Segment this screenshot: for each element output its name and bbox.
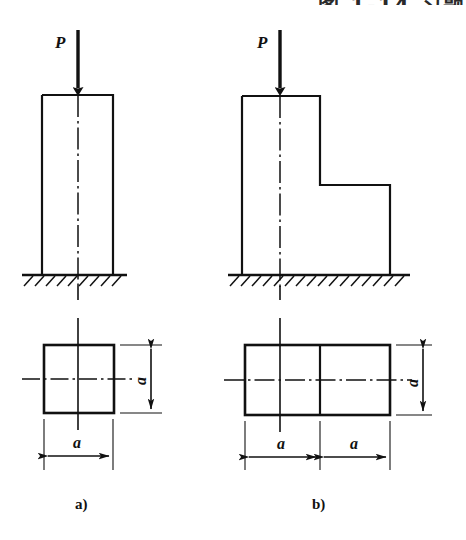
panel-a-elevation: P [22, 30, 127, 290]
caption-a: a) [75, 496, 88, 513]
ground-hatching-b [230, 276, 404, 286]
load-label-a: P [54, 33, 66, 52]
dim-label-height-b: a [404, 379, 421, 387]
ground-hatching-a [24, 276, 121, 286]
dim-label-width-b-left: a [277, 435, 285, 452]
column-outline-b [242, 96, 390, 275]
panel-b-cross-section: a a a [224, 345, 432, 470]
dim-label-height-a: a [132, 377, 149, 385]
caption-b: b) [312, 496, 325, 513]
dim-label-width-b-right: a [350, 435, 358, 452]
load-label-b: P [256, 33, 268, 52]
dim-label-width-a: a [73, 434, 81, 451]
panel-b-elevation: P [228, 30, 410, 290]
panel-a-cross-section: a a [22, 345, 162, 470]
